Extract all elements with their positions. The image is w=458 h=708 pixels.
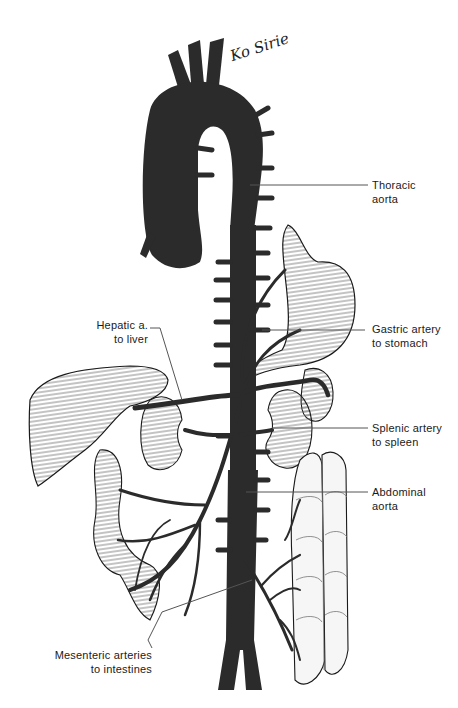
label-mesenteric-arteries: Mesenteric arteries to intestines xyxy=(40,648,152,676)
small-intestine xyxy=(94,450,160,620)
anatomy-illustration xyxy=(0,0,458,708)
label-abdominal-aorta: Abdominal aorta xyxy=(372,485,426,513)
label-thoracic-aorta: Thoracic aorta xyxy=(372,178,416,206)
label-gastric-artery: Gastric artery to stomach xyxy=(372,322,441,350)
colon xyxy=(291,452,348,684)
aorta-diagram: Ko Sirie Thoracic aorta Hepatic a. to li… xyxy=(0,0,458,708)
label-splenic-artery: Splenic artery to spleen xyxy=(372,421,442,449)
label-hepatic-artery: Hepatic a. to liver xyxy=(82,318,148,346)
